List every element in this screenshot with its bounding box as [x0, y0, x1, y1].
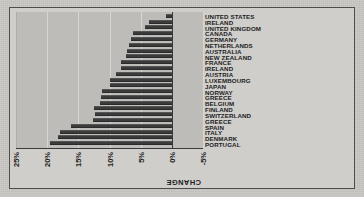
bar	[145, 25, 172, 29]
bar	[121, 60, 171, 64]
bar	[149, 20, 171, 24]
x-axis-tick-label: NORWAY	[203, 90, 323, 94]
x-axis-category-labels: PORTUGALDENMARKITALYSPAINGREECESWITZERLA…	[203, 12, 323, 149]
x-axis-tick-label: FINLAND	[203, 107, 323, 111]
x-axis-tick-label: GREECE	[203, 95, 323, 99]
x-axis-tick-label: GREECE	[203, 119, 323, 123]
x-axis-tick-label: GERMANY	[203, 37, 323, 41]
zero-axis-line	[172, 12, 173, 148]
y-axis-tick-label: -5%	[199, 152, 208, 165]
x-axis-tick-label-text: UNITED STATES	[205, 12, 255, 19]
x-axis-tick-label: JAPAN	[203, 84, 323, 88]
bar	[131, 37, 172, 41]
x-axis-tick-label: SPAIN	[203, 125, 323, 129]
x-axis-tick-label: ITALY	[203, 130, 323, 134]
y-axis-title: CHANGE	[10, 175, 356, 190]
x-axis-tick-label-text: PORTUGAL	[205, 141, 241, 148]
x-axis-tick-label: CANADA	[203, 31, 323, 35]
x-axis-tick-label: SWITZERLAND	[203, 113, 323, 117]
bar	[94, 106, 172, 110]
y-axis-tick-label: 0%	[167, 152, 176, 163]
bar	[121, 66, 172, 70]
chart-upright-canvas: CHANGE 25%20%15%10%5%0%-5% PORTUGALDENMA…	[10, 8, 356, 190]
x-axis-tick-label: DENMARK	[203, 136, 323, 140]
x-axis-tick-label-text: BELGIUM	[205, 100, 234, 107]
scanned-page: CHANGE 25%20%15%10%5%0%-5% PORTUGALDENMA…	[0, 0, 364, 197]
bar	[133, 31, 172, 35]
bar	[93, 118, 172, 122]
bar	[60, 130, 172, 134]
bar	[127, 49, 172, 53]
x-axis-tick-label: NEW ZEALAND	[203, 55, 323, 59]
x-axis-tick-label: IRELAND	[203, 66, 323, 70]
bar	[71, 124, 172, 128]
x-axis-tick-label-text: LUXEMBOURG	[205, 76, 251, 83]
x-axis-tick-label: NETHERLANDS	[203, 43, 323, 47]
x-axis-tick-label: BELGIUM	[203, 101, 323, 105]
y-axis-title-label: CHANGE	[166, 178, 201, 187]
plot-column: PORTUGALDENMARKITALYSPAINGREECESWITZERLA…	[10, 8, 356, 149]
x-axis-tick-label-text: SWITZERLAND	[205, 111, 251, 118]
y-axis-ticks: 25%20%15%10%5%0%-5%	[10, 149, 356, 175]
chart-inner: CHANGE 25%20%15%10%5%0%-5% PORTUGALDENMA…	[10, 8, 356, 190]
bar	[100, 101, 172, 105]
bar	[110, 83, 172, 87]
x-axis-tick-label: AUSTRIA	[203, 72, 323, 76]
bar	[50, 141, 172, 145]
x-axis-tick-label-text: AUSTRIA	[205, 71, 233, 78]
y-axis-tick-label: 25%	[12, 152, 21, 167]
bar	[101, 95, 172, 99]
bar	[116, 72, 172, 76]
plot-area	[16, 12, 203, 149]
x-axis-tick-label-text: IRELAND	[205, 65, 233, 72]
bar	[58, 135, 171, 139]
x-axis-tick-label: LUXEMBOURG	[203, 78, 323, 82]
x-axis-tick-label-text: FINLAND	[205, 106, 233, 113]
bar	[126, 54, 172, 58]
x-axis-tick-label: IRELAND	[203, 20, 323, 24]
x-axis-tick-label-text: GERMANY	[205, 36, 237, 43]
x-axis-tick-label: AUSTRALIA	[203, 49, 323, 53]
y-axis-tick-label: 10%	[105, 152, 114, 167]
y-axis-tick-label: 5%	[136, 152, 145, 163]
x-axis-tick-label: UNITED KINGDOM	[203, 26, 323, 30]
x-axis-tick-label: PORTUGAL	[203, 142, 323, 146]
bar-series	[16, 12, 172, 148]
bar	[129, 43, 172, 47]
y-axis-tick-label: 15%	[74, 152, 83, 167]
bar	[110, 78, 172, 82]
x-axis-tick-label-text: DENMARK	[205, 135, 237, 142]
x-axis-tick-label-text: NETHERLANDS	[205, 42, 253, 49]
bar	[95, 112, 172, 116]
chart-rotation-wrapper: CHANGE 25%20%15%10%5%0%-5% PORTUGALDENMA…	[10, 8, 356, 190]
x-axis-tick-label: UNITED STATES	[203, 14, 323, 18]
bar	[102, 89, 172, 93]
y-axis-tick-label: 20%	[43, 152, 52, 167]
x-axis-tick-label: FRANCE	[203, 60, 323, 64]
bar	[166, 14, 172, 18]
chart-frame: CHANGE 25%20%15%10%5%0%-5% PORTUGALDENMA…	[9, 7, 355, 189]
